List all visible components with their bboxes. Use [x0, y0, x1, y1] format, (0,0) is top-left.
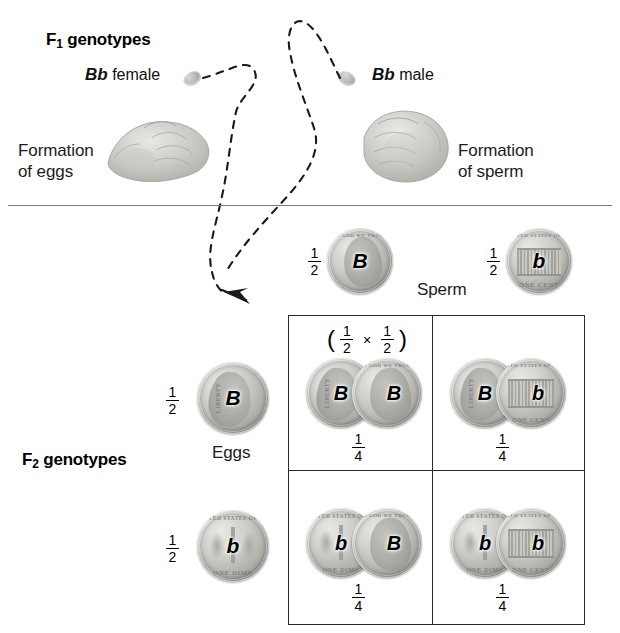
egg-coin-dime-tails-b: UNITED STATES OF AMERICA ONE DIME b	[197, 510, 269, 582]
cell-bb-sperm-coin-penny-tails: UNITED STATES OF AMERICA ONE CENT b	[496, 508, 566, 578]
egg-coin-dime-heads-B: LIBERTY B	[197, 362, 269, 434]
f1-female-sex: female	[112, 66, 160, 83]
eggs-label: Eggs	[212, 443, 250, 462]
egg-allele-b: b	[197, 510, 269, 582]
f1-male-sex: male	[399, 66, 434, 83]
expr-open-paren: (	[327, 325, 335, 352]
egg-b-probability: 1 2	[166, 533, 179, 564]
expr-fraction-b: 1 2	[381, 324, 394, 355]
f1-male-genotype-label: Bb male	[372, 65, 434, 84]
f1-female-genotype: Bb	[85, 65, 108, 84]
expr-times-symbol: ×	[363, 332, 371, 348]
egg-allele-B: B	[197, 362, 269, 434]
egg-B-probability: 1 2	[166, 385, 179, 416]
female-hand-illustration	[98, 98, 218, 188]
f1-genotypes-heading: F1 genotypes	[46, 30, 150, 49]
f2-genotypes-heading: F2 genotypes	[22, 450, 126, 469]
sperm-coin-penny-tails-b: UNITED STATES OF AMERICA ONE CENT b	[506, 228, 572, 294]
cell-BB-sperm-coin-penny-heads: IN GOD WE TRUST B	[352, 358, 422, 428]
cell-bB-sperm-coin-penny-heads: IN GOD WE TRUST B	[352, 508, 422, 578]
female-gamete-coin-icon	[181, 68, 203, 87]
expr-close-paren: )	[399, 325, 407, 352]
formation-of-sperm-caption: Formation of sperm	[458, 140, 534, 183]
cell-bb-probability: 1 4	[496, 582, 509, 613]
formation-of-eggs-caption: Formation of eggs	[18, 140, 94, 183]
sperm-b-probability: 1 2	[487, 246, 500, 277]
figure-canvas: F1 genotypes Bb female Bb male	[0, 0, 620, 633]
sperm-label: Sperm	[417, 280, 467, 299]
cell-BB-probability: 1 4	[352, 432, 365, 463]
male-gamete-coin-icon	[336, 68, 358, 87]
cell-BB-sperm-allele: B	[352, 358, 422, 428]
f1-heading-text: F1 genotypes	[46, 30, 150, 49]
cell-bb-sperm-allele: b	[496, 508, 566, 578]
trajectory-arrowhead	[222, 288, 250, 304]
sperm-B-probability: 1 2	[308, 246, 321, 277]
probability-multiplication-expression: ( 1 2 × 1 2 )	[327, 324, 407, 355]
sperm-coin-penny-heads-B: IN GOD WE TRUST B	[327, 228, 393, 294]
f2-heading-text: F2 genotypes	[22, 450, 126, 469]
sperm-allele-b: b	[506, 228, 572, 294]
section-divider-rule	[8, 205, 612, 206]
cell-Bb-sperm-allele: b	[496, 358, 566, 428]
cell-Bb-probability: 1 4	[496, 432, 509, 463]
cell-bB-sperm-allele: B	[352, 508, 422, 578]
sperm-allele-B: B	[327, 228, 393, 294]
f1-female-genotype-label: Bb female	[85, 65, 160, 84]
cell-bB-probability: 1 4	[352, 582, 365, 613]
f1-male-genotype: Bb	[372, 65, 395, 84]
merge-path	[212, 272, 224, 294]
male-coin-path	[226, 21, 340, 272]
male-hand-illustration	[352, 98, 462, 190]
cell-Bb-sperm-coin-penny-tails: UNITED STATES OF AMERICA ONE CENT b	[496, 358, 566, 428]
punnett-grid-horizontal-divider	[288, 470, 585, 471]
expr-fraction-a: 1 2	[340, 324, 353, 355]
